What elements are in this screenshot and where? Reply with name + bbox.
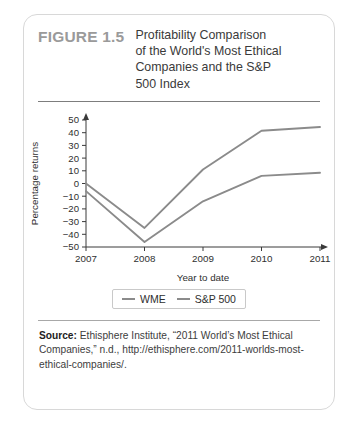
series-line [86,127,320,228]
x-tick-label: 2007 [75,253,97,264]
chart-legend: WME S&P 500 [24,289,334,309]
y-tick-label: −40 [63,229,79,240]
x-tick-label: 2011 [309,253,330,264]
figure-card: FIGURE 1.5 Profitability Comparison of t… [23,14,335,410]
figure-title: Profitability Comparison of the World's … [135,27,281,92]
source-label: Source: [39,330,77,341]
y-tick-label: −50 [63,241,79,252]
x-axis-label: Year to date [177,272,230,283]
y-tick-label: −20 [63,203,79,214]
figure-title-line: of the World's Most Ethical [135,43,281,59]
figure-title-line: 500 Index [135,76,281,92]
figure-title-line: Profitability Comparison [135,27,281,43]
legend-item-sp500: S&P 500 [177,293,236,305]
y-tick-label: 40 [68,127,79,138]
legend-label: S&P 500 [195,293,236,305]
header-divider [38,101,320,102]
legend-box: WME S&P 500 [112,289,246,309]
y-tick-label: 50 [68,114,79,125]
y-tick-label: 20 [68,152,79,163]
source-divider [38,320,320,321]
x-axis-ticks: 20072008200920102011 [75,247,330,264]
legend-label: WME [140,293,166,305]
x-tick-label: 2010 [251,253,273,264]
chart-series [86,127,320,242]
legend-item-wme: WME [122,293,166,305]
source-note: Source: Ethisphere Institute, “2011 Worl… [39,329,318,373]
chart-axes [83,113,328,250]
figure-header: FIGURE 1.5 Profitability Comparison of t… [24,15,334,92]
y-tick-label: −10 [63,190,79,201]
legend-swatch-icon [177,298,190,300]
y-axis-label: Percentage returns [29,142,40,225]
line-chart: 50403020100−10−20−30−40−50 2007200820092… [24,112,334,287]
y-tick-label: 30 [68,140,79,151]
figure-title-line: Companies and the S&P [135,59,281,75]
figure-number-label: FIGURE 1.5 [38,27,124,46]
source-body: Ethisphere Institute, “2011 World’s Most… [39,330,304,370]
chart-canvas: 50403020100−10−20−30−40−50 2007200820092… [24,112,334,287]
y-axis-ticks: 50403020100−10−20−30−40−50 [63,114,86,252]
series-line [86,173,320,242]
y-tick-label: −30 [63,216,79,227]
x-tick-label: 2009 [192,253,214,264]
x-tick-label: 2008 [134,253,156,264]
legend-swatch-icon [122,298,135,300]
y-tick-label: 0 [74,178,79,189]
y-tick-label: 10 [68,165,79,176]
